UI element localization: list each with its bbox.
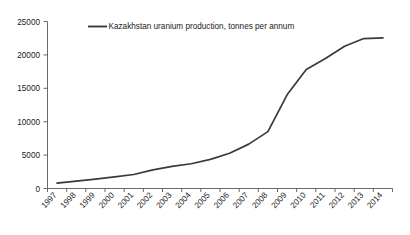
x-tick-label-1997: 1997 <box>40 190 59 210</box>
x-tick-label-2010: 2010 <box>289 190 308 210</box>
line-chart: 25000 20000 15000 10000 5000 0 199719981… <box>0 0 410 235</box>
chart-container: 25000 20000 15000 10000 5000 0 199719981… <box>0 0 410 235</box>
legend-label: Kazakhstan uranium production, tonnes pe… <box>109 22 295 31</box>
x-tick-labels: 1997199819992000200120022003200420052006… <box>40 190 385 210</box>
x-tick-label-2013: 2013 <box>346 190 365 210</box>
y-tick-label-0: 0 <box>35 185 40 194</box>
x-tick-label-2004: 2004 <box>174 190 193 210</box>
x-tick-label-1998: 1998 <box>59 190 78 210</box>
x-tick-label-1999: 1999 <box>78 190 97 210</box>
x-tick-label-2005: 2005 <box>193 190 212 210</box>
x-tick-label-2012: 2012 <box>327 190 346 210</box>
y-tick-label-5000: 5000 <box>22 151 41 160</box>
x-tick-label-2002: 2002 <box>135 190 154 210</box>
clipped-caption-strip <box>0 226 410 235</box>
y-tick-label-25000: 25000 <box>17 18 40 27</box>
x-tick-label-2014: 2014 <box>365 190 384 210</box>
legend: Kazakhstan uranium production, tonnes pe… <box>88 22 294 31</box>
y-tick-label-15000: 15000 <box>17 84 40 93</box>
x-tick-label-2007: 2007 <box>231 190 250 210</box>
x-tick-label-2008: 2008 <box>250 190 269 210</box>
series-line-kazakhstan-uranium-production <box>57 38 383 183</box>
x-tick-label-2011: 2011 <box>308 190 327 209</box>
x-tick-label-2009: 2009 <box>270 190 289 210</box>
x-tick-label-2001: 2001 <box>116 190 135 210</box>
y-tick-label-10000: 10000 <box>17 118 40 127</box>
x-tick-label-2003: 2003 <box>155 190 174 210</box>
x-tick-label-2006: 2006 <box>212 190 231 210</box>
x-axis-group: 1997199819992000200120022003200420052006… <box>40 189 393 211</box>
x-tick-label-2000: 2000 <box>97 190 116 210</box>
x-tick-marks <box>48 189 393 193</box>
series-group <box>57 38 383 183</box>
y-axis-group: 25000 20000 15000 10000 5000 0 <box>17 18 47 194</box>
y-tick-label-20000: 20000 <box>17 51 40 60</box>
